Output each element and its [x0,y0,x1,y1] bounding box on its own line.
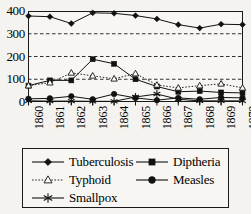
y-axis-tick-label: 200 [6,50,25,63]
x-axis-tick-label: 1869 [225,106,237,129]
x-axis-tick-label: 1861 [54,106,66,129]
series-layer [25,10,246,105]
legend-label: Measles [169,173,214,187]
data-point-filled-diamond [47,14,53,20]
line-chart: 0100200300400 18601861186218631864186518… [0,0,251,140]
legend-marker-filled-diamond [31,154,65,170]
x-axis-tick-label: 1867 [182,106,194,129]
data-point-filled-diamond [111,10,117,16]
legend-entry[interactable]: Measles [135,171,214,189]
data-point-filled-square [90,57,95,62]
x-axis-tick-label: 1860 [33,106,45,129]
legend-entry[interactable]: Tuberculosis [31,153,133,171]
x-axis-tick-label: 1862 [75,106,87,129]
data-point-filled-circle [111,91,117,97]
chart-page: 0100200300400 18601861186218631864186518… [0,0,251,214]
data-point-open-triangle [218,80,224,86]
data-point-open-triangle [44,176,52,183]
y-axis-tick-label: 100 [6,72,25,85]
data-point-filled-diamond [154,16,160,22]
legend-marker-asterisk [31,190,65,206]
x-axis-tick-labels: 1860186118621863186418651866186718681869… [28,104,243,140]
x-axis-tick-label: 1865 [140,106,152,129]
y-axis-tick-label: 400 [6,4,25,17]
legend-label: Diptheria [169,155,220,169]
data-point-filled-diamond [90,10,96,16]
legend-marker-filled-circle [135,172,169,188]
data-point-filled-diamond [218,21,224,27]
data-point-filled-square [197,89,202,94]
series-tuberculosis [26,10,246,31]
chart-legend: TuberculosisDiptheriaTyphoidMeaslesSmall… [22,148,229,208]
data-point-filled-square [112,61,117,66]
data-point-filled-square [133,77,138,82]
plot-canvas [28,11,243,102]
legend-entry[interactable]: Smallpox [31,189,117,207]
data-point-filled-diamond [240,22,246,28]
data-point-filled-circle [154,97,160,103]
data-point-filled-square [69,78,74,83]
x-axis-tick-label: 1863 [97,106,109,129]
legend-entry[interactable]: Diptheria [135,153,220,171]
y-axis-tick-label: 300 [6,27,25,40]
data-point-filled-diamond [197,25,203,31]
data-point-filled-diamond [133,13,139,19]
legend-label: Tuberculosis [65,155,133,169]
data-point-filled-square [240,90,245,95]
data-point-filled-square [219,90,224,95]
data-point-filled-diamond [44,158,51,165]
x-axis-tick-label: 1870 [247,106,252,129]
y-axis-tick-labels: 0100200300400 [0,0,28,140]
data-point-open-triangle [68,70,74,76]
x-axis-tick-label: 1866 [161,106,173,129]
legend-label: Typhoid [65,173,111,187]
y-axis-tick-label: 0 [19,95,25,108]
legend-marker-filled-square [135,154,169,170]
data-point-filled-square [149,159,155,165]
legend-entry[interactable]: Typhoid [31,171,111,189]
data-point-filled-diamond [175,22,181,28]
legend-marker-open-triangle [31,172,65,188]
x-axis-tick-label: 1868 [204,106,216,129]
data-point-open-triangle [132,70,138,76]
legend-label: Smallpox [65,191,117,205]
data-point-filled-diamond [68,21,74,27]
x-axis-tick-label: 1864 [118,106,130,129]
data-point-filled-circle [149,177,156,184]
